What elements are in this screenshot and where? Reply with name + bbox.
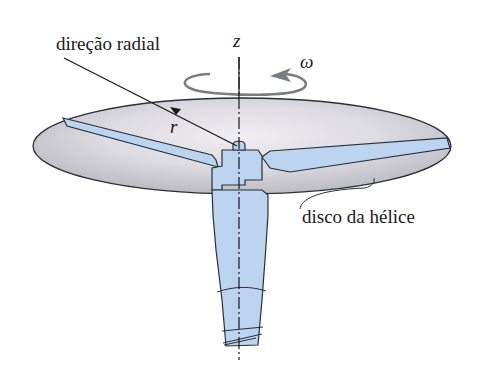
label-radial-direction: direção radial (56, 33, 160, 54)
rotation-arrow-icon (185, 68, 306, 95)
propeller-disk-diagram: direção radial z ω r disco da hélice (0, 0, 477, 369)
label-z-axis: z (232, 30, 241, 51)
label-radius: r (170, 116, 178, 137)
label-propeller-disk: disco da hélice (302, 206, 415, 227)
propeller-shaft (212, 190, 268, 346)
label-omega: ω (300, 51, 313, 72)
